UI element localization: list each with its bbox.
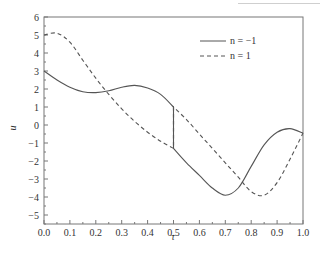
y-tick-label: 4	[34, 48, 39, 59]
x-tick-label: 0.9	[271, 227, 284, 238]
y-axis-ticks: 6543210−1−2−3−4−5	[28, 12, 48, 225]
x-tick-label: 0.8	[245, 227, 258, 238]
legend-label-n-minus-1: n = −1	[230, 35, 256, 46]
y-tick-label: 1	[34, 102, 39, 113]
y-tick-label: −1	[28, 138, 39, 149]
x-tick-label: 0.6	[193, 227, 206, 238]
x-tick-label: 1.0	[297, 227, 310, 238]
y-tick-label: −2	[28, 156, 39, 167]
y-tick-label: 6	[34, 12, 39, 23]
x-tick-label: 0.4	[141, 227, 154, 238]
x-axis-label: τ	[171, 231, 175, 242]
line-chart: 0.00.10.20.30.40.50.60.70.80.91.0 654321…	[0, 0, 320, 260]
y-tick-label: 3	[34, 66, 39, 77]
legend-label-n-1: n = 1	[230, 50, 251, 61]
y-tick-label: 2	[34, 84, 39, 95]
x-tick-label: 0.0	[38, 227, 51, 238]
x-tick-label: 0.1	[64, 227, 77, 238]
y-tick-label: 0	[34, 120, 39, 131]
y-tick-label: −3	[28, 174, 39, 185]
x-tick-label: 0.3	[115, 227, 128, 238]
y-tick-label: 5	[34, 30, 39, 41]
series-lines	[44, 33, 303, 196]
y-tick-label: −5	[28, 210, 39, 221]
x-tick-label: 0.2	[90, 227, 103, 238]
series-line-n-minus-1	[44, 71, 303, 195]
y-tick-label: −4	[28, 192, 39, 203]
legend: n = −1 n = 1	[200, 35, 256, 61]
x-tick-label: 0.7	[219, 227, 232, 238]
y-axis-label: u	[7, 126, 18, 131]
